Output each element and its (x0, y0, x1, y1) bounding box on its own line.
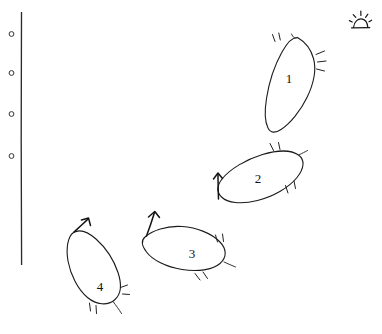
sun-ray-icon (353, 15, 356, 18)
shape-4-hatch (90, 303, 91, 311)
shape-3-hatch (195, 274, 200, 281)
shape-2-hatch (270, 144, 274, 151)
shape-1-group: 1 (265, 33, 326, 132)
axis-marker-circle (9, 112, 14, 117)
sun-ray-icon (349, 21, 352, 22)
shape-2-group: 2 (214, 143, 308, 203)
shape-1-hatch (317, 69, 325, 71)
sun-dome-icon (354, 19, 368, 28)
shape-3-tip (224, 262, 236, 267)
vertical-axis-group (9, 12, 22, 265)
shape-1-hatch (316, 51, 325, 55)
shape-3-hatch (203, 272, 208, 279)
sketch-drawing: 1 2 (0, 0, 382, 334)
shape-4-label: 4 (97, 279, 104, 294)
shape-2-hatch (294, 181, 296, 189)
shape-1-hatch (273, 35, 276, 42)
sketch-canvas: 1 2 (0, 0, 382, 334)
shape-1-hatch (318, 61, 327, 62)
shape-1-hatch (279, 33, 281, 40)
shape-2-tip (299, 151, 308, 156)
shape-1-label: 1 (286, 71, 293, 86)
shape-2-hatch (279, 143, 281, 150)
shape-4-hatch (123, 294, 130, 295)
sun-ray-icon (369, 20, 372, 22)
shape-3-label: 3 (189, 246, 196, 261)
axis-marker-circle (9, 71, 14, 76)
shape-3-hatch (223, 234, 224, 242)
shape-4-group: 4 (67, 218, 129, 314)
shape-4-outline (67, 231, 120, 304)
shape-1-tip (292, 34, 298, 38)
shape-4-hatch (121, 285, 128, 288)
shape-4-tip (113, 302, 122, 314)
shape-3-outline (142, 226, 225, 270)
sun-ray-icon (366, 14, 368, 17)
sun-icon-group (349, 11, 371, 28)
shape-3-group: 3 (142, 212, 235, 281)
shape-4-hatch (96, 306, 97, 314)
shape-2-arrow-shaft (218, 174, 219, 200)
axis-marker-circle (9, 32, 14, 37)
shape-4-arrow-shaft (74, 219, 88, 232)
shape-2-label: 2 (255, 171, 262, 186)
axis-marker-circle (9, 154, 14, 159)
